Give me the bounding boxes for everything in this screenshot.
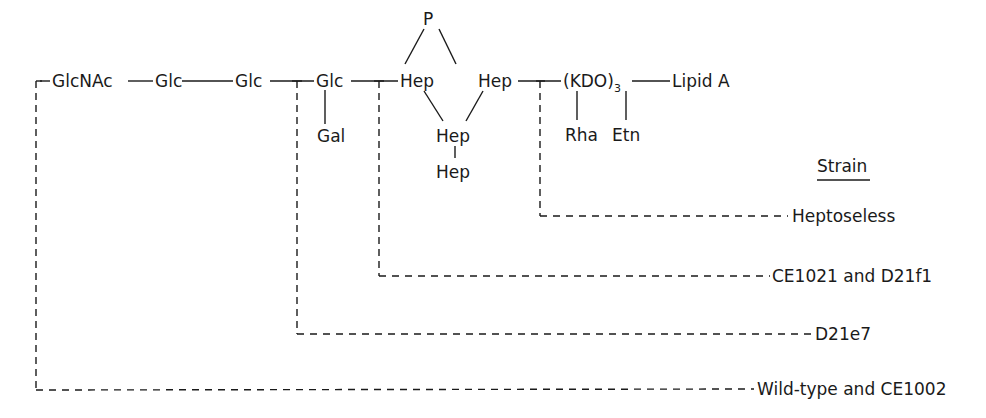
kdo-label: (KDO) <box>563 71 614 91</box>
strain-label-wild-type-ce1002: Wild-type and CE1002 <box>757 379 946 399</box>
strain-legend-title: Strain <box>817 156 867 176</box>
node-hep-1: Hep <box>400 71 434 91</box>
node-glc-1: Glc <box>155 71 182 91</box>
lps-structure-diagram: GlcNAc Glc Glc Glc Hep Hep (KDO)3 Lipid … <box>0 0 986 418</box>
bracket-heptoseless <box>536 81 788 216</box>
node-glc-3: Glc <box>316 71 343 91</box>
node-gal: Gal <box>317 126 345 146</box>
node-rha: Rha <box>565 125 598 145</box>
node-hep-2: Hep <box>478 71 512 91</box>
node-glcnac: GlcNAc <box>52 71 113 91</box>
node-lipid-a: Lipid A <box>672 71 730 91</box>
node-glc-2: Glc <box>235 71 262 91</box>
bracket-ce1021-d21f1 <box>374 81 770 276</box>
node-etn: Etn <box>612 125 640 145</box>
node-kdo: (KDO)3 <box>563 71 621 95</box>
node-hep-3: Hep <box>436 126 470 146</box>
bracket-d21e7 <box>292 81 812 334</box>
strain-label-d21e7: D21e7 <box>815 324 871 344</box>
strain-label-heptoseless: Heptoseless <box>792 206 895 226</box>
node-phosphate: P <box>423 9 433 29</box>
strain-label-ce1021-d21f1: CE1021 and D21f1 <box>772 266 932 286</box>
bracket-wild-type-ce1002 <box>36 81 754 390</box>
kdo-subscript: 3 <box>614 82 621 95</box>
node-hep-4: Hep <box>436 162 470 182</box>
